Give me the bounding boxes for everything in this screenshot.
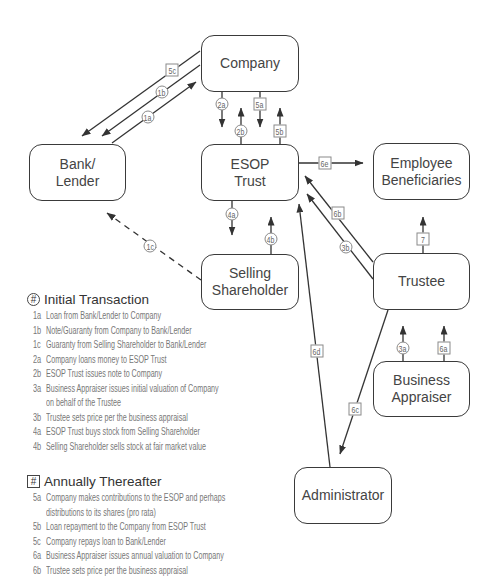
edge-label-4a: 4a (226, 208, 239, 221)
edge-label-7: 7 (417, 233, 430, 246)
arrow-6d (299, 204, 330, 467)
edge-label-5b: 5b (274, 125, 287, 138)
edge-label-5a: 5a (254, 98, 267, 111)
node-label: Bank/ (60, 156, 96, 173)
legend-text: Trustee sets price per the business appr… (46, 563, 188, 577)
legend-code: 4a (33, 424, 41, 439)
node-bank-lender: Bank/ Lender (29, 144, 126, 201)
legend-text: Company repays loan to Bank/Lender (46, 534, 166, 549)
legend-text: ESOP Trust buys stock from Selling Share… (46, 424, 200, 439)
legend-text: Selling Shareholder sells stock at fair … (46, 439, 206, 454)
edge-label-text: 2b (237, 126, 245, 136)
edge-label-6c: 6c (349, 403, 362, 416)
node-label: Employee (390, 155, 452, 172)
node-label: Business (393, 372, 450, 389)
edge-label-5c: 5c (166, 64, 179, 77)
node-esop-trust: ESOP Trust (201, 144, 299, 201)
edge-label-1c: 1c (144, 240, 157, 253)
edge-label-2a: 2a (216, 98, 229, 111)
edge-label-6a: 6a (438, 342, 451, 355)
legend-code: 1c (33, 337, 41, 352)
edge-label-3a: 3a (397, 342, 410, 355)
legend-code: 1a (33, 308, 41, 323)
legend-code: 6b (33, 563, 41, 577)
node-label: Trustee (398, 273, 445, 290)
legend-text: Company makes contributions to the ESOP … (46, 490, 225, 505)
legend-code: 3a (33, 381, 41, 396)
legend-text: Trustee sets price per the business appr… (46, 410, 188, 425)
square-hash-marker-icon: # (27, 475, 40, 488)
edge-label-1b: 1b (156, 86, 169, 99)
edge-label-text: 7 (421, 234, 425, 244)
node-label: Lender (56, 173, 100, 190)
legend-code: 6a (33, 548, 41, 563)
legend-text: Business Appraiser issues initial valuat… (46, 381, 219, 396)
node-selling-shareholder: Selling Shareholder (201, 254, 299, 310)
node-label: Trust (234, 173, 265, 190)
legend-text: Note/Guaranty from Company to Bank/Lende… (46, 323, 192, 338)
legend-text: Loan repayment to the Company from ESOP … (46, 519, 206, 534)
edge-label-text: 4a (228, 209, 236, 219)
edge-label-6b: 6b (332, 207, 345, 220)
legend-code: 5a (33, 490, 41, 505)
edge-label-1a: 1a (142, 111, 155, 124)
legend-title: Initial Transaction (44, 292, 149, 307)
node-label: Beneficiaries (381, 172, 461, 189)
node-label: Selling (229, 265, 271, 282)
node-label: Shareholder (212, 282, 288, 299)
legend-title: Annually Thereafter (44, 474, 162, 489)
edge-label-4b: 4b (265, 233, 278, 246)
legend-text: Business Appraiser issues annual valuati… (46, 548, 224, 563)
node-company: Company (201, 35, 299, 92)
arrow-5c (82, 51, 200, 136)
legend-text: ESOP Trust issues note to Company (46, 366, 162, 381)
node-business-appraiser: Business Appraiser (373, 361, 470, 417)
legend-code: 5b (33, 519, 41, 534)
edge-label-text: 6a (440, 343, 448, 353)
edge-label-text: 1b (158, 87, 166, 97)
legend-code: 1b (33, 323, 41, 338)
node-label: Appraiser (392, 389, 452, 406)
node-employee-beneficiaries: Employee Beneficiaries (373, 143, 470, 200)
circle-hash-marker-icon: # (27, 293, 40, 306)
arrow-1a (112, 82, 196, 143)
edge-label-text: 6e (321, 158, 329, 168)
edge-label-text: 6b (334, 208, 342, 218)
edge-label-text: 3a (399, 343, 407, 353)
legend-text: distributions to its shares (pro rata) (46, 505, 156, 520)
legend-code: 2b (33, 366, 41, 381)
edge-label-text: 4b (267, 234, 275, 244)
edge-label-text: 5a (256, 99, 264, 109)
edge-label-2b: 2b (235, 125, 248, 138)
legend-code: 3b (33, 410, 41, 425)
edge-label-text: 6c (351, 404, 358, 414)
node-label: Administrator (302, 487, 384, 504)
legend-header: # Annually Thereafter (27, 474, 162, 489)
edge-label-text: 3b (342, 242, 350, 252)
edge-label-text: 1c (146, 241, 153, 251)
edge-label-text: 2a (218, 99, 226, 109)
edge-label-text: 5c (168, 65, 175, 75)
edge-label-3b: 3b (340, 241, 353, 254)
legend-code: 5c (33, 534, 41, 549)
arrow-1b (102, 65, 200, 136)
node-trustee: Trustee (373, 253, 470, 310)
legend-text: on behalf of the Trustee (46, 395, 121, 410)
edge-label-text: 5b (276, 126, 284, 136)
edge-label-text: 1a (144, 112, 152, 122)
legend-text: Company loans money to ESOP Trust (46, 352, 167, 367)
node-administrator: Administrator (294, 467, 392, 524)
legend-header: # Initial Transaction (27, 292, 149, 307)
legend-code: 2a (33, 352, 41, 367)
edge-label-6d: 6d (311, 345, 324, 358)
legend-text: Loan from Bank/Lender to Company (46, 308, 161, 323)
legend-text: Guaranty from Selling Shareholder to Ban… (46, 337, 206, 352)
node-label: ESOP (231, 156, 270, 173)
edge-label-text: 6d (313, 346, 321, 356)
legend-code: 4b (33, 439, 41, 454)
node-label: Company (220, 55, 280, 72)
edge-label-6e: 6e (319, 157, 332, 170)
